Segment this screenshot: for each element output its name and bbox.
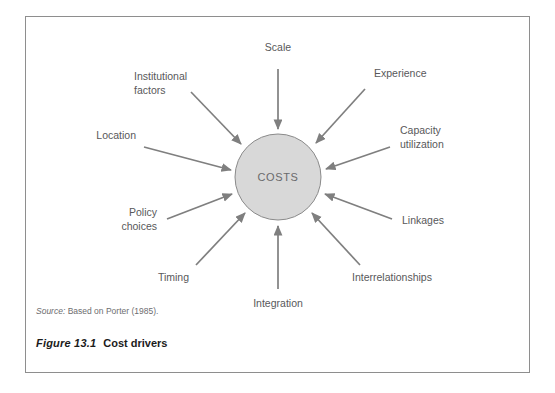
source-note: Source: Based on Porter (1985).: [36, 306, 158, 316]
driver-label-interrelationships: Interrelationships: [352, 271, 432, 283]
costs-label: COSTS: [258, 171, 299, 183]
figure-number: Figure 13.1: [36, 337, 96, 349]
arrow-policy-choices: [167, 194, 232, 219]
arrow-experience: [316, 89, 365, 143]
arrow-timing: [196, 213, 245, 265]
arrow-capacity-utilization: [326, 147, 390, 169]
source-label: Source:: [36, 306, 65, 316]
figure-caption: Figure 13.1Cost drivers: [36, 337, 167, 349]
driver-label-linkages: Linkages: [402, 214, 444, 226]
driver-label-capacity-utilization: Capacity: [400, 124, 442, 136]
cost-drivers-diagram: COSTS Scale Experience Capacity utilizat…: [26, 17, 529, 372]
driver-label-experience: Experience: [374, 67, 427, 79]
source-text: Based on Porter (1985).: [65, 306, 158, 316]
figure-frame: COSTS Scale Experience Capacity utilizat…: [25, 16, 530, 373]
driver-label-integration: Integration: [253, 297, 303, 309]
arrow-institutional-factors: [191, 92, 241, 144]
figure-title: Cost drivers: [103, 337, 167, 349]
driver-label-capacity-utilization-line2: utilization: [400, 138, 444, 150]
arrow-linkages: [325, 194, 392, 219]
driver-label-policy-choices-line2: choices: [121, 220, 157, 232]
driver-label-scale: Scale: [265, 41, 291, 53]
arrow-interrelationships: [312, 213, 360, 265]
driver-label-timing: Timing: [158, 271, 189, 283]
driver-label-policy-choices: Policy: [129, 206, 158, 218]
arrow-location: [144, 147, 231, 170]
driver-label-institutional-factors: Institutional: [134, 70, 187, 82]
driver-label-institutional-factors-line2: factors: [134, 84, 166, 96]
driver-label-location: Location: [96, 129, 136, 141]
